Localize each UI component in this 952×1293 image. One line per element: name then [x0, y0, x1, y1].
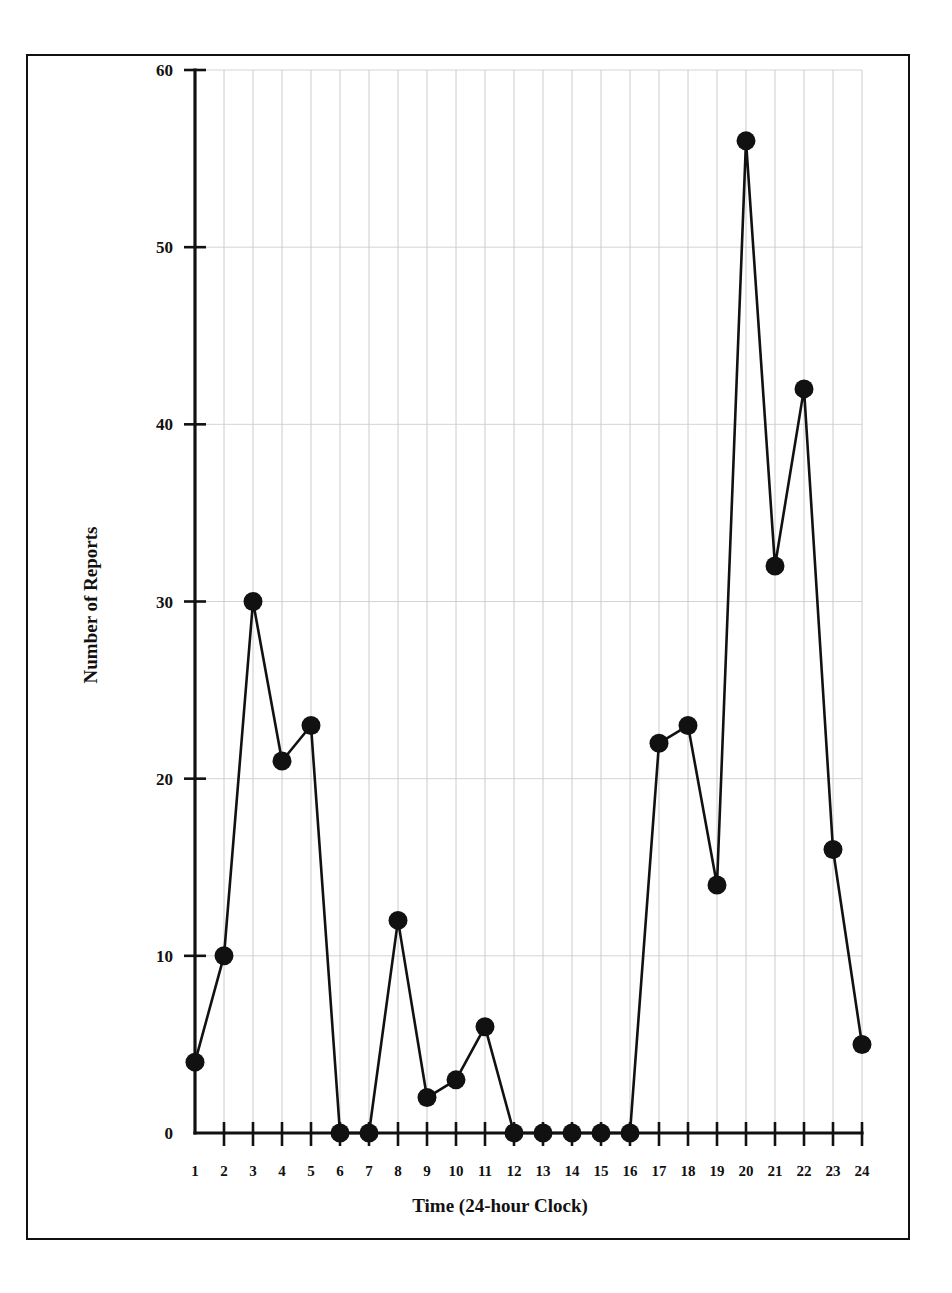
data-point — [534, 1124, 553, 1143]
data-point — [592, 1124, 611, 1143]
data-point — [853, 1035, 872, 1054]
data-point — [795, 379, 814, 398]
data-point — [447, 1070, 466, 1089]
data-point — [563, 1124, 582, 1143]
data-point — [389, 911, 408, 930]
x-tick-label: 6 — [336, 1163, 344, 1179]
x-tick-label: 11 — [478, 1163, 492, 1179]
x-tick-label: 16 — [623, 1163, 639, 1179]
y-tick-label: 0 — [165, 1124, 174, 1143]
x-tick-label: 3 — [249, 1163, 257, 1179]
x-tick-label: 14 — [565, 1163, 581, 1179]
x-tick-label: 24 — [855, 1163, 871, 1179]
x-tick-label: 10 — [449, 1163, 464, 1179]
data-point — [273, 751, 292, 770]
data-point — [360, 1124, 379, 1143]
x-axis-tick-labels: 123456789101112131415161718192021222324 — [191, 1163, 870, 1179]
y-tick-label: 50 — [156, 238, 173, 257]
data-point — [766, 557, 785, 576]
data-point — [244, 592, 263, 611]
x-tick-label: 5 — [307, 1163, 315, 1179]
data-point — [505, 1124, 524, 1143]
y-tick-label: 60 — [156, 61, 173, 80]
data-series-points — [186, 131, 872, 1142]
x-tick-label: 17 — [652, 1163, 668, 1179]
chart-svg: 0102030405060 12345678910111213141516171… — [0, 0, 952, 1293]
x-tick-label: 13 — [536, 1163, 551, 1179]
y-axis-title: Number of Reports — [80, 527, 101, 684]
y-tick-label: 20 — [156, 770, 173, 789]
data-point — [476, 1017, 495, 1036]
x-tick-label: 12 — [507, 1163, 522, 1179]
data-point — [650, 734, 669, 753]
data-point — [708, 875, 727, 894]
x-tick-label: 23 — [826, 1163, 841, 1179]
data-point — [302, 716, 321, 735]
x-tick-label: 1 — [191, 1163, 199, 1179]
data-point — [737, 131, 756, 150]
data-point — [186, 1053, 205, 1072]
x-tick-label: 7 — [365, 1163, 373, 1179]
data-point — [331, 1124, 350, 1143]
x-tick-label: 18 — [681, 1163, 696, 1179]
x-tick-label: 20 — [739, 1163, 754, 1179]
x-tick-label: 8 — [394, 1163, 402, 1179]
y-tick-label: 40 — [156, 415, 173, 434]
y-axis-tick-labels: 0102030405060 — [156, 61, 173, 1143]
x-tick-label: 15 — [594, 1163, 609, 1179]
figure-page: 0102030405060 12345678910111213141516171… — [0, 0, 952, 1293]
horizontal-gridlines — [195, 70, 862, 956]
y-tick-label: 30 — [156, 593, 173, 612]
data-series-line — [195, 141, 862, 1133]
x-tick-label: 9 — [423, 1163, 431, 1179]
data-point — [418, 1088, 437, 1107]
x-tick-label: 21 — [768, 1163, 783, 1179]
y-tick-label: 10 — [156, 947, 173, 966]
line-chart: 0102030405060 12345678910111213141516171… — [0, 0, 952, 1293]
x-tick-label: 4 — [278, 1163, 286, 1179]
x-tick-label: 2 — [220, 1163, 228, 1179]
data-point — [824, 840, 843, 859]
data-point — [679, 716, 698, 735]
x-tick-label: 19 — [710, 1163, 725, 1179]
x-axis-title: Time (24-hour Clock) — [412, 1195, 588, 1217]
x-tick-label: 22 — [797, 1163, 812, 1179]
data-point — [215, 946, 234, 965]
data-point — [621, 1124, 640, 1143]
